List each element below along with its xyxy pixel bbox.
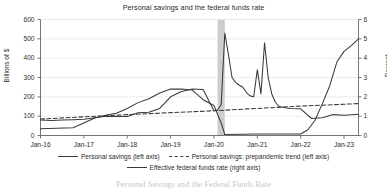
legend-label-prepandemic-trend: Personal savings: prepandemic trend (lef…	[192, 153, 329, 160]
x-axis-tick-label: Jan-23	[324, 141, 364, 148]
y-axis-left-tick-label: 0	[13, 132, 35, 139]
figure-caption: Personal Savings and the Federal Funds R…	[0, 179, 387, 191]
x-axis-tick-label: Jan-21	[237, 141, 277, 148]
legend-label-personal-savings: Personal savings (left axis)	[81, 153, 160, 160]
x-axis-tick-label: Jan-19	[151, 141, 191, 148]
y-axis-right-tick-label: 5	[364, 35, 386, 42]
y-axis-right-tick-label: 1	[364, 112, 386, 119]
y-axis-right-tick-label: 4	[364, 54, 386, 61]
chart-plot-area	[0, 0, 387, 191]
legend-item-prepandemic-trend: Personal savings: prepandemic trend (lef…	[169, 153, 329, 160]
x-axis-tick-label: Jan-18	[107, 141, 147, 148]
y-axis-right-tick-label: 0	[364, 132, 386, 139]
y-axis-left-tick-label: 400	[13, 54, 35, 61]
y-axis-left-tick-label: 200	[13, 93, 35, 100]
y-axis-right-tick-label: 2	[364, 93, 386, 100]
y-axis-right-tick-label: 3	[364, 74, 386, 81]
line-solid-icon	[58, 156, 78, 157]
x-axis-tick-label: Jan-17	[64, 141, 104, 148]
chart-legend-row-1: Personal savings (left axis) Personal sa…	[0, 153, 387, 160]
chart-legend-row-2: Effective federal funds rate (right axis…	[0, 164, 387, 171]
legend-label-fed-funds-rate: Effective federal funds rate (right axis…	[150, 164, 261, 171]
chart-figure: Personal savings and the federal funds r…	[0, 0, 387, 191]
y-axis-left-tick-label: 100	[13, 112, 35, 119]
line-solid-icon	[127, 167, 147, 168]
legend-item-fed-funds-rate: Effective federal funds rate (right axis…	[127, 164, 261, 171]
x-axis-tick-label: Jan-16	[21, 141, 61, 148]
y-axis-left-tick-label: 600	[13, 16, 35, 23]
x-axis-tick-label: Jan-22	[281, 141, 321, 148]
y-axis-left-tick-label: 300	[13, 74, 35, 81]
y-axis-left-tick-label: 500	[13, 35, 35, 42]
x-axis-tick-label: Jan-20	[194, 141, 234, 148]
y-axis-right-tick-label: 6	[364, 16, 386, 23]
legend-item-personal-savings: Personal savings (left axis)	[58, 153, 160, 160]
line-dashed-icon	[169, 156, 189, 157]
